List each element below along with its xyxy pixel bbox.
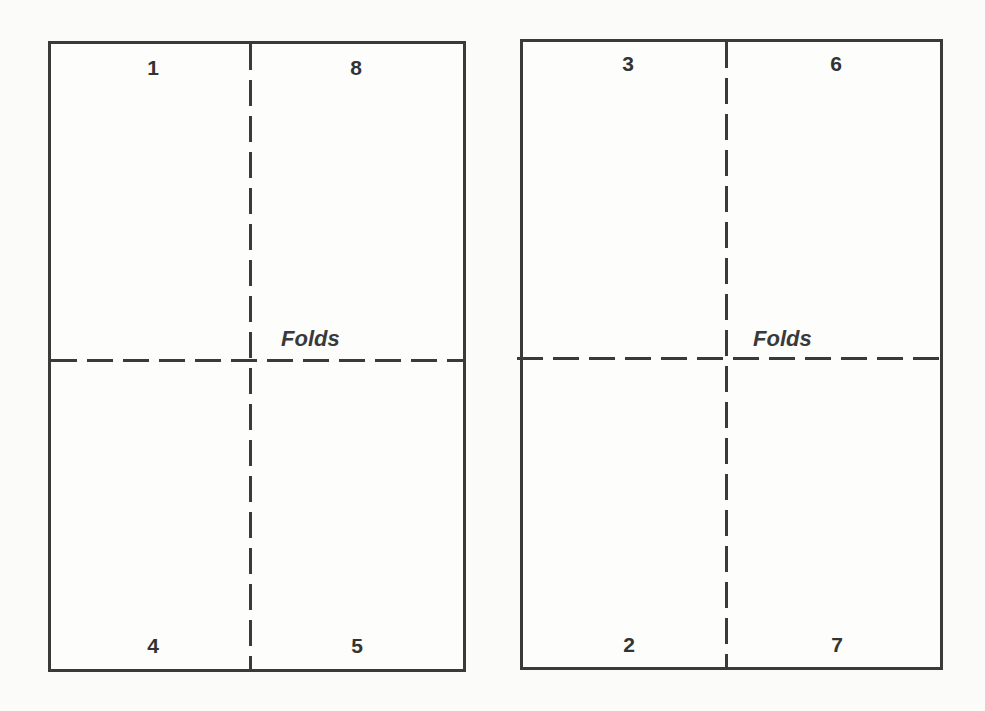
sheet-left: 1 8 4 5 Folds [48,41,466,672]
vertical-fold-line [249,44,252,669]
vertical-fold-line [725,42,728,667]
page-number-bottom-left: 4 [133,634,173,658]
horizontal-fold-line [517,357,940,360]
sheet-right: 3 6 2 7 Folds [520,39,943,670]
page-number-top-left: 3 [608,52,648,76]
page-number-bottom-right: 5 [337,634,377,658]
horizontal-fold-line [51,359,463,362]
page-number-bottom-right: 7 [817,633,857,657]
page-number-top-right: 6 [816,52,856,76]
page-number-bottom-left: 2 [609,633,649,657]
page-number-top-left: 1 [133,56,173,80]
folds-label: Folds [753,326,812,352]
folds-label: Folds [281,326,340,352]
page-number-top-right: 8 [336,56,376,80]
